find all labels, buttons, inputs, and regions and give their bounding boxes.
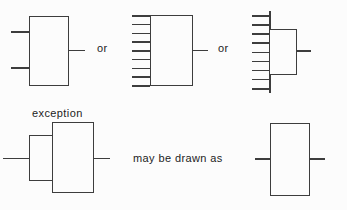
input-line <box>132 68 150 70</box>
output-line <box>193 50 208 52</box>
input-line <box>252 33 270 35</box>
input-line <box>132 33 150 35</box>
input-line <box>252 61 270 63</box>
input-line <box>252 88 270 90</box>
input-line <box>252 70 270 72</box>
block-outline <box>29 16 69 86</box>
or-label-1: or <box>97 42 108 55</box>
input-line <box>132 59 150 61</box>
input-lines-group <box>252 15 270 90</box>
output-line <box>297 50 311 52</box>
or-label-2: or <box>218 42 229 55</box>
input-line <box>132 50 150 52</box>
input-line <box>252 42 270 44</box>
output-line <box>69 50 85 52</box>
input-line <box>255 158 270 160</box>
input-line <box>132 41 150 43</box>
input-line <box>11 31 29 33</box>
input-lines-group <box>132 15 150 87</box>
small-block-outline <box>29 135 53 181</box>
input-line <box>132 76 150 78</box>
diagram-canvas: or or exception may be drawn as <box>0 0 347 210</box>
exception-label: exception <box>32 107 83 120</box>
input-line <box>11 67 29 69</box>
input-line <box>132 85 150 87</box>
large-block-outline <box>52 122 94 193</box>
may-be-drawn-as-label: may be drawn as <box>133 152 223 165</box>
output-line <box>94 158 110 160</box>
block-outline <box>150 15 193 86</box>
input-line <box>252 24 270 26</box>
input-line <box>252 52 270 54</box>
input-line <box>132 15 150 17</box>
block-outline <box>270 123 310 196</box>
input-line <box>132 24 150 26</box>
input-line <box>3 158 29 160</box>
block-outline <box>269 29 297 75</box>
output-line <box>310 158 325 160</box>
input-line <box>252 15 270 17</box>
input-line <box>252 79 270 81</box>
